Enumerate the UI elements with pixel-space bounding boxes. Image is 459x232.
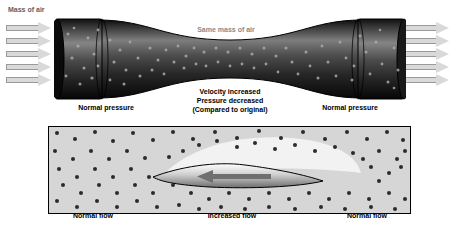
airfoil-scene (49, 127, 411, 214)
label-normal-flow-right: Normal flow (324, 212, 410, 221)
inlet-arrow-4 (6, 63, 58, 71)
inlet-arrows (6, 24, 58, 94)
venturi-panel: Mass of air (0, 0, 459, 118)
label-compared-to-original: (Compared to original) (192, 106, 267, 113)
inlet-arrow-2 (6, 37, 58, 45)
inlet-arrow-1 (6, 24, 58, 32)
outlet-arrows (404, 24, 456, 94)
label-normal-flow-left: Normal flow (50, 212, 136, 221)
label-same-mass-of-air: Same mass of air (156, 26, 296, 35)
outlet-arrow-4 (404, 63, 456, 71)
airfoil-captions: Normal flow Increased flow Normal flow (48, 212, 411, 228)
label-mass-of-air: Mass of air (8, 6, 94, 15)
label-velocity-increased: Velocity increased (199, 88, 260, 95)
outlet-arrow-2 (404, 37, 456, 45)
diagram-root: Mass of air (0, 0, 459, 232)
inlet-arrow-3 (6, 50, 58, 58)
label-center-caption: Velocity increased Pressure decreased (C… (162, 88, 298, 114)
outlet-arrow-3 (404, 50, 456, 58)
label-increased-flow: Increased flow (184, 212, 280, 221)
label-normal-pressure-right: Normal pressure (300, 104, 400, 113)
airfoil-panel (48, 126, 411, 214)
outlet-arrow-5 (404, 76, 456, 84)
label-pressure-decreased: Pressure decreased (197, 97, 264, 104)
inlet-arrow-5 (6, 76, 58, 84)
outlet-arrow-1 (404, 24, 456, 32)
label-normal-pressure-left: Normal pressure (56, 104, 156, 113)
